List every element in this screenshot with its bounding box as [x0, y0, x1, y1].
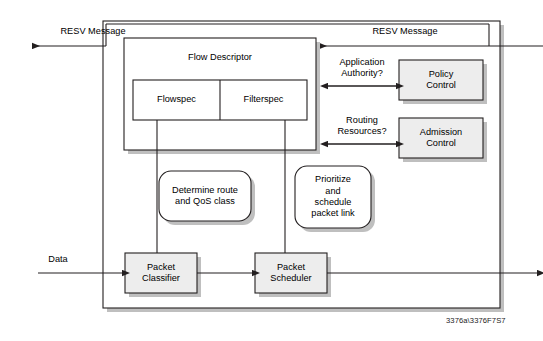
figure-id-caption: 3376a\3376F7S7	[446, 316, 506, 325]
packet-classifier-label: Packet Classifier	[125, 253, 197, 293]
packet-scheduler-label: Packet Scheduler	[255, 253, 327, 293]
flow-descriptor-label: Flow Descriptor	[124, 46, 316, 70]
determine-route-callout-label: Determine route and QoS class	[159, 171, 251, 221]
filterspec-label: Filterspec	[220, 80, 307, 120]
diagram-canvas: RESV Message RESV Message Flow Descripto…	[0, 0, 543, 341]
flowspec-label: Flowspec	[133, 80, 220, 120]
prioritize-schedule-callout-label: Prioritize and schedule packet link	[295, 166, 371, 228]
policy-control-label: Policy Control	[399, 60, 483, 100]
routing-resources-label: Routing Resources?	[320, 115, 404, 137]
resv-message-left-label: RESV Message	[38, 26, 148, 37]
admission-control-label: Admission Control	[399, 118, 483, 158]
application-authority-label: Application Authority?	[320, 57, 404, 79]
data-label: Data	[28, 254, 88, 265]
resv-message-right-label: RESV Message	[350, 26, 460, 37]
